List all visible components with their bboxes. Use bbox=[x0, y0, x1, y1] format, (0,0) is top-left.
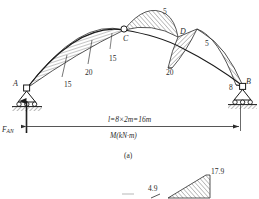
node-label-B: B bbox=[246, 78, 251, 86]
moment-value-left-20: 20 bbox=[85, 69, 93, 77]
lower-partial-figure bbox=[122, 175, 210, 198]
moment-value-db-5: 5 bbox=[205, 40, 209, 48]
moment-area-DB bbox=[197, 29, 243, 86]
node-label-A: A bbox=[13, 80, 18, 88]
moment-value-left-15: 15 bbox=[64, 81, 72, 89]
lower-value-17-9: 17.9 bbox=[211, 168, 224, 176]
figure-caption: (a) bbox=[124, 152, 132, 160]
lower-value-4-9: 4.9 bbox=[148, 185, 157, 193]
reaction-force-label: FAN bbox=[2, 126, 14, 135]
quantity-label: M(kN·m) bbox=[110, 132, 137, 140]
moment-value-b-8: 8 bbox=[229, 84, 233, 92]
span-dimension-label: l=8×2m=16m bbox=[108, 116, 151, 124]
reaction-force-subscript: AN bbox=[7, 128, 14, 134]
crown-hinge-C bbox=[121, 26, 127, 32]
node-label-D: D bbox=[180, 28, 186, 36]
bending-moment-figure: A C D B 15 20 15 5 20 5 8 FAN l=8×2m=16m… bbox=[0, 0, 259, 199]
moment-value-c-left-15: 15 bbox=[109, 55, 117, 63]
moment-value-d-20: 20 bbox=[166, 69, 174, 77]
moment-area-CD bbox=[124, 10, 178, 37]
moment-value-cd-5: 5 bbox=[163, 8, 167, 16]
node-label-C: C bbox=[123, 35, 128, 43]
